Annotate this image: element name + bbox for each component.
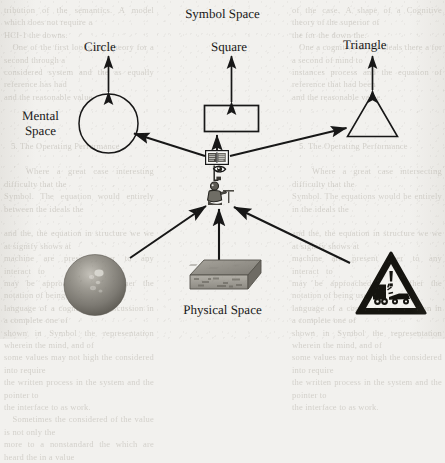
book-icon — [205, 150, 229, 165]
sphere-object — [62, 253, 128, 317]
exclamation-mark — [389, 271, 392, 286]
warning-sign-object — [355, 251, 427, 317]
mental-space-label: Mental Space — [22, 108, 59, 138]
triangle-label: Triangle — [343, 38, 387, 53]
symbol-shapes-group — [79, 94, 398, 154]
symbol-bidirectional-arrows — [109, 56, 373, 102]
triangle-symbol-shape — [348, 94, 398, 137]
mental-space-label-line1: Mental — [22, 108, 59, 123]
square-label: Square — [211, 40, 247, 55]
physical-to-mental-arrows — [130, 206, 350, 263]
square-symbol-shape — [205, 106, 259, 132]
arrow-warning-to-person — [234, 207, 350, 263]
box-object — [186, 258, 268, 299]
circle-label: Circle — [84, 40, 116, 55]
arrow-book-to-circle — [134, 134, 205, 157]
mental-space-label-line2: Space — [22, 123, 59, 138]
arrow-sphere-to-person — [130, 206, 206, 258]
symbol-space-title: Symbol Space — [0, 7, 445, 22]
eye-icon — [211, 164, 228, 182]
person-icon — [203, 181, 235, 206]
circle-symbol-shape — [79, 94, 138, 153]
